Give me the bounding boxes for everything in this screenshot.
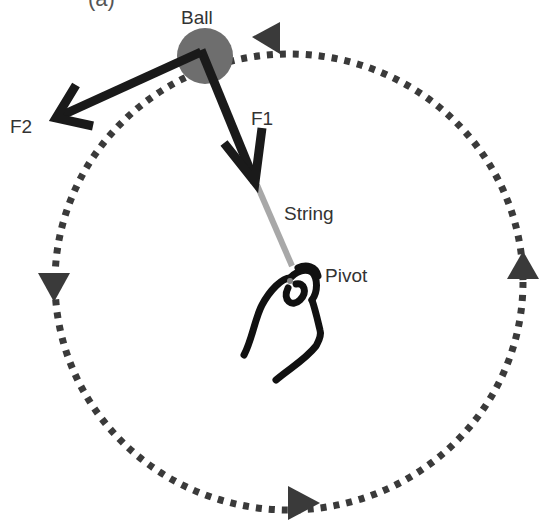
f1-label: F1 [251,108,273,129]
orbit-arrow-top-icon [252,22,280,54]
f2-label: F2 [10,116,32,137]
orbit-arrow-left-icon [38,273,70,302]
hand-icon [244,266,321,380]
string [257,185,292,266]
caption-fragment: (a) [88,0,115,11]
ball-label: Ball [181,7,213,28]
string-label: String [284,203,334,224]
circular-motion-diagram: (a) Ball String F1 F2 Pivot [0,0,550,521]
orbit-arrow-bottom-icon [288,486,320,520]
pivot-label: Pivot [325,265,368,286]
pivot-point [287,278,293,284]
orbit-arrow-right-icon [507,251,539,279]
